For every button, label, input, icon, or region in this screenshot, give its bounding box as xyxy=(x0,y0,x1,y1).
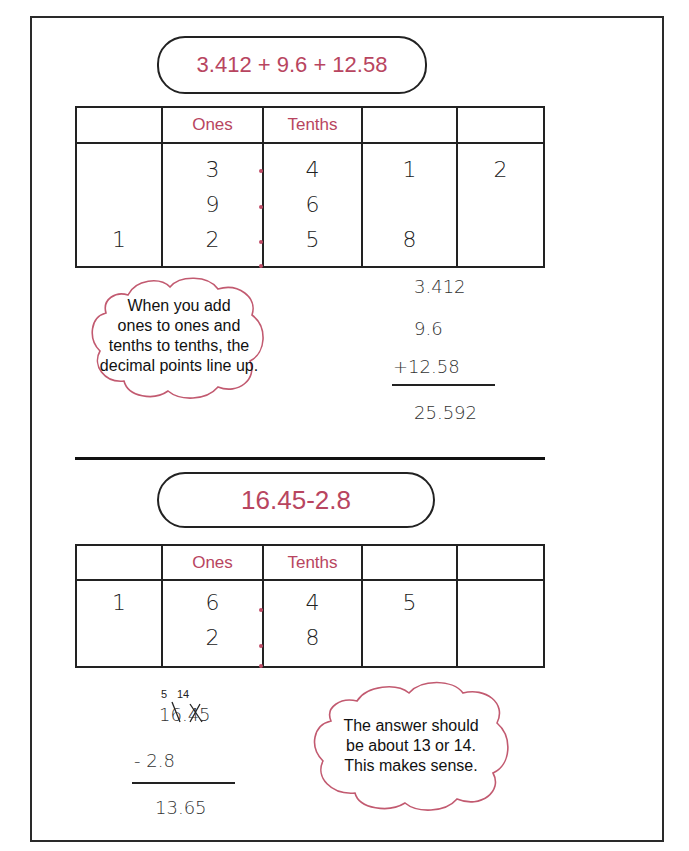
decimal-point-marker xyxy=(259,169,263,173)
note-line: The answer should xyxy=(316,716,506,736)
header-ones: Ones xyxy=(162,107,263,143)
problem2-note: The answer should be about 13 or 14. Thi… xyxy=(316,716,506,776)
decimal-point-marker xyxy=(259,608,263,612)
difference-line xyxy=(132,782,235,784)
header-cell xyxy=(362,107,457,143)
header-cell xyxy=(457,107,544,143)
digit: 6 xyxy=(163,585,262,620)
sum-answer: 25.592 xyxy=(414,402,477,423)
digit: 2 xyxy=(163,620,262,655)
digit xyxy=(458,585,543,620)
digit xyxy=(458,620,543,655)
difference-answer: 13.65 xyxy=(155,797,207,818)
header-cell xyxy=(76,107,162,143)
decimal-point-marker xyxy=(259,205,263,209)
note-line: decimal points line up. xyxy=(96,356,262,376)
digit xyxy=(77,152,161,187)
problem2-expression: 16.45-2.8 xyxy=(157,472,435,528)
problem1-place-value-table: Ones Tenths 1 392 465 18 2 xyxy=(75,106,545,268)
digit: 2 xyxy=(163,222,262,257)
digit: 5 xyxy=(264,222,361,257)
problem1-expression: 3.412 + 9.6 + 12.58 xyxy=(157,36,427,94)
note-line: This makes sense. xyxy=(316,756,506,776)
digit xyxy=(363,187,456,222)
column-thousandths xyxy=(457,580,544,667)
column-tenths: 465 xyxy=(263,143,362,267)
digit: 2 xyxy=(458,152,543,187)
header-cell xyxy=(362,545,457,580)
note-line: When you add xyxy=(96,296,262,316)
digit xyxy=(363,620,456,655)
addend-2: 9.6 xyxy=(414,318,443,339)
problem2-place-value-table: Ones Tenths 1 62 48 5 xyxy=(75,544,545,668)
digit: 6 xyxy=(264,187,361,222)
digit: 3 xyxy=(163,152,262,187)
digit: 4 xyxy=(264,585,361,620)
regroup-tenths: 14 xyxy=(177,688,189,700)
digit: 1 xyxy=(363,152,456,187)
column-hundredths: 18 xyxy=(362,143,457,267)
decimal-point-marker xyxy=(259,664,263,668)
regroup-ones: 5 xyxy=(161,688,167,700)
column-ones: 62 xyxy=(162,580,263,667)
digit: 8 xyxy=(264,620,361,655)
subtrahend: - 2.8 xyxy=(134,750,175,771)
digit xyxy=(77,620,161,655)
digit: 1 xyxy=(77,585,161,620)
crossout-marks-icon xyxy=(170,700,210,726)
digit: 4 xyxy=(264,152,361,187)
note-line: tenths to tenths, the xyxy=(96,336,262,356)
section-divider xyxy=(75,457,545,460)
problem1-expression-text: 3.412 + 9.6 + 12.58 xyxy=(197,52,388,78)
column-thousandths: 2 xyxy=(457,143,544,267)
problem1-note: When you add ones to ones and tenths to … xyxy=(96,296,262,376)
decimal-point-marker xyxy=(259,644,263,648)
problem2-expression-text: 16.45-2.8 xyxy=(241,485,351,516)
digit xyxy=(458,187,543,222)
digit: 9 xyxy=(163,187,262,222)
addend-1: 3.412 xyxy=(414,276,466,297)
sum-line xyxy=(392,384,495,386)
column-tens: 1 xyxy=(76,143,162,267)
digit: 1 xyxy=(77,222,161,257)
column-ones: 392 xyxy=(162,143,263,267)
digit: 8 xyxy=(363,222,456,257)
addend-3: +12.58 xyxy=(393,356,460,377)
digit xyxy=(77,187,161,222)
digit xyxy=(458,222,543,257)
header-ones: Ones xyxy=(162,545,263,580)
column-hundredths: 5 xyxy=(362,580,457,667)
note-line: ones to ones and xyxy=(96,316,262,336)
decimal-point-marker xyxy=(259,240,263,244)
column-tens: 1 xyxy=(76,580,162,667)
header-cell xyxy=(76,545,162,580)
header-tenths: Tenths xyxy=(263,545,362,580)
column-tenths: 48 xyxy=(263,580,362,667)
header-cell xyxy=(457,545,544,580)
note-line: be about 13 or 14. xyxy=(316,736,506,756)
digit: 5 xyxy=(363,585,456,620)
header-tenths: Tenths xyxy=(263,107,362,143)
decimal-point-marker xyxy=(259,264,263,268)
